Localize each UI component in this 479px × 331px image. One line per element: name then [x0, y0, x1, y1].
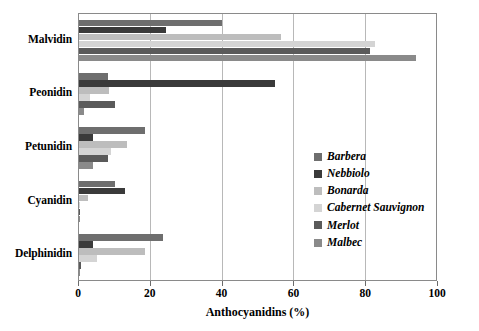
tick-mark-100 [437, 281, 438, 286]
legend-label: Barbera [327, 151, 366, 163]
legend-swatch-malbec [314, 239, 322, 247]
tick-mark-0 [78, 281, 79, 286]
x-axis-ticks [78, 281, 437, 287]
tick-label-0: 0 [75, 287, 81, 299]
category-label-malvidin: Malvidin [28, 33, 72, 45]
category-label-delphinidin: Delphinidin [15, 247, 72, 259]
legend-swatch-nebbiolo [314, 170, 322, 178]
category-label-cyanidin: Cyanidin [27, 194, 72, 206]
category-label-petunidin: Petunidin [25, 140, 72, 152]
legend-item-malbec: Malbec [314, 234, 434, 251]
tick-mark-80 [365, 281, 366, 286]
tick-label-80: 80 [359, 287, 371, 299]
legend-item-merlot: Merlot [314, 217, 434, 234]
chart-legend: BarberaNebbioloBonardaCabernet Sauvignon… [314, 148, 434, 251]
legend-label: Cabernet Sauvignon [327, 202, 424, 214]
legend-item-bonarda: Bonarda [314, 182, 434, 199]
legend-swatch-merlot [314, 221, 322, 229]
legend-item-barbera: Barbera [314, 148, 434, 165]
tick-label-100: 100 [428, 287, 445, 299]
legend-label: Merlot [327, 220, 359, 232]
x-axis-title: Anthocyanidins (%) [78, 305, 437, 320]
legend-swatch-bonarda [314, 187, 322, 195]
legend-swatch-cabernet-sauvignon [314, 204, 322, 212]
tick-mark-60 [293, 281, 294, 286]
tick-label-40: 40 [216, 287, 228, 299]
legend-item-nebbiolo: Nebbiolo [314, 165, 434, 182]
tick-label-60: 60 [288, 287, 300, 299]
category-label-peonidin: Peonidin [29, 86, 72, 98]
legend-label: Malbec [327, 237, 362, 249]
tick-label-20: 20 [144, 287, 156, 299]
legend-swatch-barbera [314, 153, 322, 161]
tick-mark-40 [222, 281, 223, 286]
tick-mark-20 [150, 281, 151, 286]
legend-item-cabernet-sauvignon: Cabernet Sauvignon [314, 200, 434, 217]
anthocyanidins-bar-chart: MalvidinPeonidinPetunidinCyanidinDelphin… [0, 0, 479, 331]
legend-label: Nebbiolo [327, 168, 370, 180]
legend-label: Bonarda [327, 185, 369, 197]
